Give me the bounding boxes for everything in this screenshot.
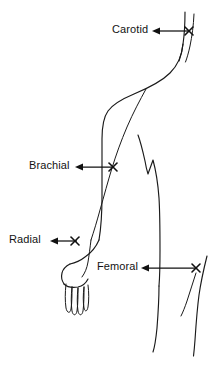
neck-line-inner <box>186 14 195 62</box>
label-brachial: Brachial <box>29 160 70 171</box>
hand-outline <box>62 264 70 284</box>
hand-outline-lower <box>64 279 88 287</box>
label-femoral: Femoral <box>97 261 138 272</box>
radial-arrow-head <box>50 238 58 245</box>
leg-back-contour <box>194 256 208 356</box>
pulse-points-diagram: Carotid Brachial Radial Femoral <box>0 0 221 365</box>
torso-hip-contour <box>138 135 160 286</box>
body-figure-illustration <box>0 0 221 365</box>
neck-line-outer <box>179 12 185 61</box>
arm-inner-contour <box>91 89 146 240</box>
leg-front-contour <box>153 286 159 352</box>
shoulder-and-back-contour <box>99 44 183 240</box>
thigh-crease <box>181 273 196 316</box>
label-radial: Radial <box>9 234 41 245</box>
label-carotid: Carotid <box>112 24 148 35</box>
arm-outer-contour <box>70 240 99 264</box>
carotid-arrow-head <box>152 28 160 35</box>
brachial-leader <box>75 164 114 171</box>
femoral-arrow-head <box>141 265 149 272</box>
femoral-leader <box>141 265 197 272</box>
brachial-arrow-head <box>75 164 83 171</box>
